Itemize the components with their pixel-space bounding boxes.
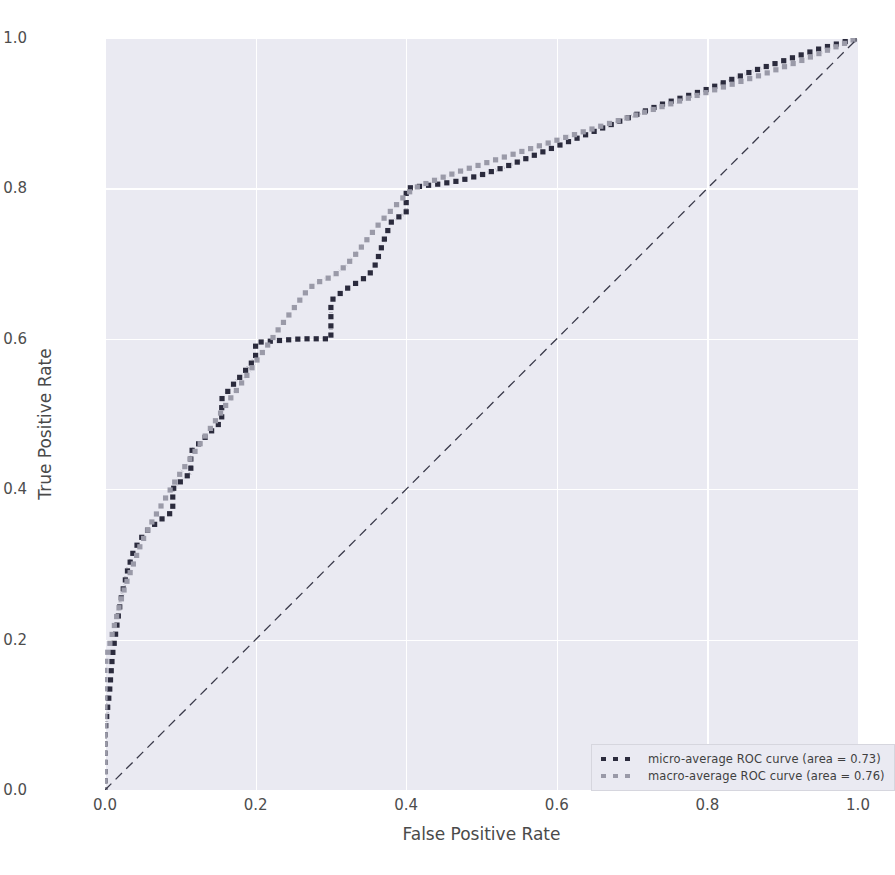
x-tick-label: 0.6	[545, 796, 569, 814]
y-axis-title: True Positive Rate	[35, 48, 55, 800]
y-tick-label: 0.6	[3, 330, 27, 348]
y-tick-label: 1.0	[3, 29, 27, 47]
x-axis-title: False Positive Rate	[105, 824, 858, 844]
x-tick-label: 0.8	[695, 796, 719, 814]
y-tick-label: 0.8	[3, 179, 27, 197]
chart-legend: micro-average ROC curve (area = 0.73)mac…	[591, 744, 895, 791]
plot-area	[105, 38, 858, 790]
legend-swatch-icon	[599, 754, 641, 764]
x-tick-label: 1.0	[846, 796, 870, 814]
legend-label: micro-average ROC curve (area = 0.73)	[648, 752, 881, 766]
y-tick-label: 0.2	[3, 631, 27, 649]
series-line-chance-diagonal	[105, 38, 858, 790]
roc-curves	[105, 38, 858, 790]
x-tick-label: 0.0	[93, 796, 117, 814]
y-tick-label: 0.0	[3, 781, 27, 799]
legend-swatch-icon	[599, 771, 641, 781]
x-tick-label: 0.2	[244, 796, 268, 814]
y-tick-label: 0.4	[3, 480, 27, 498]
roc-curve-figure: 0.00.20.40.60.81.0 0.00.20.40.60.81.0 Fa…	[0, 0, 895, 875]
x-tick-label: 0.4	[394, 796, 418, 814]
legend-item: micro-average ROC curve (area = 0.73)	[599, 750, 885, 767]
series-dots-macro-average-roc-curve	[105, 38, 856, 790]
legend-item: macro-average ROC curve (area = 0.76)	[599, 767, 885, 784]
legend-label: macro-average ROC curve (area = 0.76)	[648, 769, 885, 783]
